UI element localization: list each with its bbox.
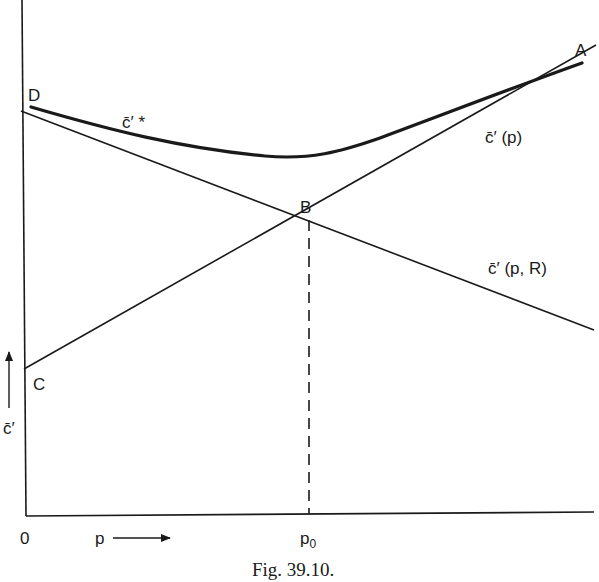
x-axis xyxy=(26,512,594,516)
curve-label-envelope: c̄′ * xyxy=(122,113,145,132)
point-label-B: B xyxy=(300,198,311,217)
point-label-A: A xyxy=(575,41,587,60)
point-label-D: D xyxy=(28,86,40,105)
origin-label: 0 xyxy=(20,529,29,548)
point-label-C: C xyxy=(33,375,45,394)
y-axis xyxy=(22,0,26,516)
curve-label-falling: c̄′ (p, R) xyxy=(488,259,547,278)
figure-caption: Fig. 39.10. xyxy=(252,559,334,580)
x-tick-label-p0: p0 xyxy=(300,529,316,551)
curve-label-rising: c̄′ (p) xyxy=(485,128,522,147)
y-axis-label: c̄′ xyxy=(3,419,15,438)
diagram-figure: D A B C c̄′ * c̄′ (p) c̄′ (p, R) c̄′ 0 p… xyxy=(0,0,599,582)
x-axis-label: p xyxy=(95,529,104,548)
